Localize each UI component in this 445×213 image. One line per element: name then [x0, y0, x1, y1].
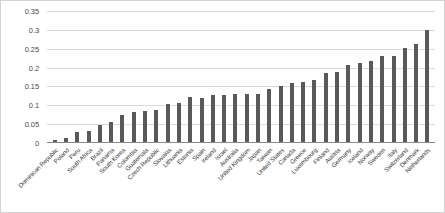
bar — [358, 63, 362, 143]
bar-slot — [365, 11, 376, 143]
bar-slot — [399, 11, 410, 143]
bar — [154, 110, 158, 143]
bar — [414, 44, 418, 143]
bar — [425, 30, 429, 143]
bar-slot — [173, 11, 184, 143]
bar-slot — [354, 11, 365, 143]
bar — [301, 82, 305, 143]
bar-slot — [49, 11, 60, 143]
bar-slot — [343, 11, 354, 143]
bar-slot — [275, 11, 286, 143]
bar — [120, 115, 124, 143]
bar — [312, 80, 316, 143]
bar-slot — [94, 11, 105, 143]
bar — [256, 94, 260, 143]
bar-slot — [388, 11, 399, 143]
x-label-slot: Netherlands — [422, 145, 433, 211]
bar — [233, 94, 237, 143]
y-axis-tick-label: 0.2 — [29, 63, 39, 72]
bar — [380, 56, 384, 143]
bar — [166, 104, 170, 143]
x-axis-line — [47, 142, 435, 143]
bar — [177, 103, 181, 143]
x-axis-tick-label: Dominican Republic — [17, 147, 59, 189]
bar — [267, 89, 271, 143]
bar-slot — [320, 11, 331, 143]
bar — [222, 95, 226, 143]
bar — [109, 122, 113, 143]
bar-slot — [105, 11, 116, 143]
bar-slot — [286, 11, 297, 143]
bar-slot — [218, 11, 229, 143]
bar-slot — [162, 11, 173, 143]
y-axis-tick-label: 0 — [35, 139, 39, 148]
y-axis-tick-label: 0.1 — [29, 101, 39, 110]
bar-slot — [298, 11, 309, 143]
bar-slot — [377, 11, 388, 143]
y-axis-tick-label: 0.35 — [25, 7, 39, 16]
bar — [369, 61, 373, 143]
bar-slot — [139, 11, 150, 143]
bar-slot — [411, 11, 422, 143]
bar — [290, 83, 294, 143]
bar-slot — [207, 11, 218, 143]
bar-slot — [241, 11, 252, 143]
bar-slot — [331, 11, 342, 143]
bar — [245, 94, 249, 143]
bar-slot — [128, 11, 139, 143]
bar — [324, 73, 328, 143]
bar — [200, 98, 204, 143]
y-axis-tick-label: 0.3 — [29, 25, 39, 34]
y-axis-tick-label: 0.25 — [25, 44, 39, 53]
bar — [143, 111, 147, 143]
bar-slot — [252, 11, 263, 143]
y-axis: 0.350.30.250.20.150.10.050 — [1, 11, 43, 143]
y-axis-tick-label: 0.05 — [25, 120, 39, 129]
bar-slot — [309, 11, 320, 143]
bar — [98, 125, 102, 143]
plot-area — [47, 11, 435, 143]
bar-slot — [151, 11, 162, 143]
bar-slot — [230, 11, 241, 143]
bar-slot — [117, 11, 128, 143]
y-axis-tick-label: 0.15 — [25, 82, 39, 91]
bar-slot — [264, 11, 275, 143]
bar-chart: 0.350.30.250.20.150.10.050 Dominican Rep… — [0, 0, 445, 213]
bar-slot — [72, 11, 83, 143]
bar — [392, 56, 396, 143]
bar — [403, 48, 407, 143]
bar — [335, 72, 339, 143]
bar — [132, 112, 136, 143]
bar-slot — [83, 11, 94, 143]
bar-slot — [60, 11, 71, 143]
bar-slot — [422, 11, 433, 143]
bar — [188, 97, 192, 143]
bar — [211, 95, 215, 143]
bar-slot — [185, 11, 196, 143]
bar — [346, 65, 350, 143]
bar-slot — [196, 11, 207, 143]
x-axis-labels: Dominican RepublicPolandPeruSouth Africa… — [47, 145, 435, 211]
bar — [279, 86, 283, 143]
bar-series — [47, 11, 435, 143]
